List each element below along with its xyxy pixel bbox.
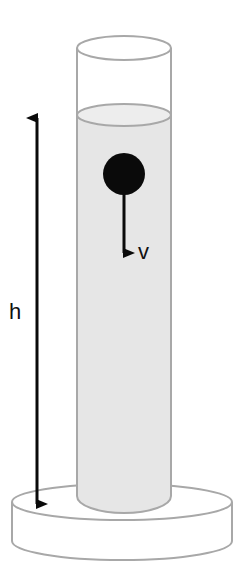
liquid-surface bbox=[77, 104, 171, 126]
cylinder-rim bbox=[77, 36, 171, 60]
diagram-canvas: v h bbox=[0, 0, 244, 587]
height-label: h bbox=[9, 299, 21, 324]
ball bbox=[103, 153, 145, 195]
velocity-label: v bbox=[138, 239, 149, 264]
